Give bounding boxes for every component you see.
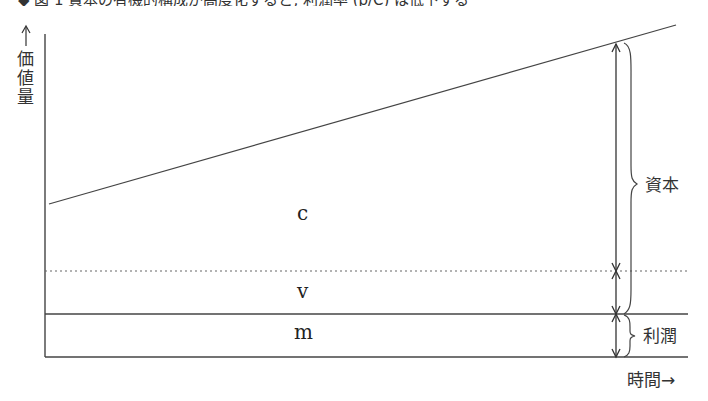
capital-composition-diagram: 価 値 量 c v m 資本 利潤 時間→ [0,0,708,401]
brace-profit-label: 利潤 [643,326,677,346]
brace-capital-label: 資本 [645,175,679,195]
y-axis-char-1: 価 [17,49,34,69]
measure-arrows [612,44,620,357]
brace-capital-icon [624,43,637,314]
region-label-c: c [297,201,308,225]
brace-profit-icon [624,315,635,357]
total-capital-line [49,25,676,204]
x-axis-label: 時間→ [627,370,675,390]
region-label-v: v [296,279,309,303]
y-axis-label: 価 値 量 [17,26,34,107]
region-label-m: m [294,320,313,344]
y-axis-char-3: 量 [17,87,34,107]
y-axis-char-2: 値 [17,68,34,88]
